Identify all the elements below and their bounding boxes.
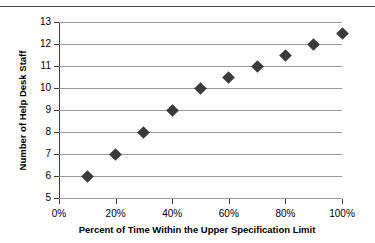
y-tick-mark <box>54 176 59 177</box>
data-point <box>138 126 151 139</box>
y-tick-label: 6 <box>23 171 51 181</box>
x-tick-mark <box>172 199 173 204</box>
data-point <box>251 60 264 73</box>
gridline <box>59 198 342 199</box>
scatter-chart-figure: Number of Help Desk Staff Percent of Tim… <box>0 0 375 243</box>
gridline <box>59 22 342 23</box>
y-tick-label: 9 <box>23 105 51 115</box>
data-point <box>336 27 349 40</box>
x-tick-label: 0% <box>39 208 79 219</box>
y-tick-mark <box>54 132 59 133</box>
x-tick-mark <box>342 199 343 204</box>
x-tick-label: 80% <box>265 208 305 219</box>
x-tick-mark <box>59 199 60 204</box>
gridline <box>59 110 342 111</box>
data-point <box>109 148 122 161</box>
data-point <box>81 170 94 183</box>
x-tick-label: 100% <box>322 208 362 219</box>
x-tick-mark <box>285 199 286 204</box>
data-point <box>166 104 179 117</box>
y-tick-label: 7 <box>23 149 51 159</box>
x-axis-title: Percent of Time Within the Upper Specifi… <box>48 224 346 235</box>
y-tick-mark <box>54 154 59 155</box>
y-tick-label: 8 <box>23 127 51 137</box>
y-tick-label: 11 <box>23 61 51 71</box>
gridline <box>59 66 342 67</box>
y-tick-label: 12 <box>23 39 51 49</box>
x-tick-label: 20% <box>96 208 136 219</box>
data-point <box>279 49 292 62</box>
y-tick-label: 13 <box>23 17 51 27</box>
gridline <box>59 176 342 177</box>
y-tick-mark <box>54 110 59 111</box>
gridline <box>59 44 342 45</box>
y-tick-label: 5 <box>23 193 51 203</box>
plot-area: 5678910111213 0%20%40%60%80%100% <box>59 22 342 198</box>
x-tick-label: 40% <box>152 208 192 219</box>
y-tick-mark <box>54 66 59 67</box>
data-point <box>307 38 320 51</box>
gridline <box>59 132 342 133</box>
data-point <box>194 82 207 95</box>
x-tick-mark <box>229 199 230 204</box>
gridline <box>59 154 342 155</box>
x-tick-mark <box>116 199 117 204</box>
y-tick-mark <box>54 44 59 45</box>
x-tick-label: 60% <box>209 208 249 219</box>
data-point <box>222 71 235 84</box>
y-tick-label: 10 <box>23 83 51 93</box>
y-tick-mark <box>54 88 59 89</box>
y-tick-mark <box>54 22 59 23</box>
